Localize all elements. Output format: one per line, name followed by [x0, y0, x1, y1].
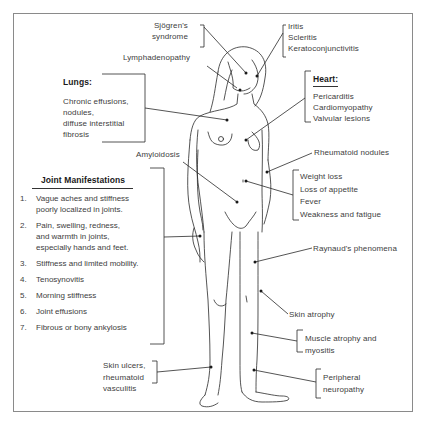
item-text: Morning stiffness: [36, 290, 138, 301]
label-eye-conditions: Iritis Scleritis Keratoconjunctivitis: [288, 21, 359, 54]
joint-manifestations-list: 1.Vague aches and stiffness poorly local…: [20, 193, 138, 338]
label-peripheral-neuropathy: Peripheral neuropathy: [323, 372, 364, 396]
item-text: Stiffness and limited mobility.: [36, 258, 138, 269]
item-number: 2.: [20, 220, 27, 231]
joint-item-4: 4.Tenosynovitis: [20, 274, 138, 285]
item-number: 7.: [20, 322, 27, 333]
item-number: 1.: [20, 193, 27, 204]
label-amyloidosis: Amyloidosis: [136, 149, 180, 160]
joint-item-3: 3.Stiffness and limited mobility.: [20, 258, 138, 269]
item-number: 5.: [20, 290, 27, 301]
label-rheumatoid-nodules: Rheumatoid nodules: [314, 147, 389, 158]
item-text: Joint effusions: [36, 306, 138, 317]
lungs-body: Chronic effusions, nodules, diffuse inte…: [63, 96, 129, 140]
joint-item-7: 7.Fibrous or bony ankylosis: [20, 322, 138, 333]
label-systemic-symptoms: Weight loss Loss of appetite Fever Weakn…: [300, 171, 381, 221]
item-text: Tenosynovitis: [36, 274, 138, 285]
joint-item-5: 5.Morning stiffness: [20, 290, 138, 301]
item-text: Vague aches and stiffness poorly localiz…: [36, 193, 138, 215]
label-muscle-atrophy: Muscle atrophy and myositis: [305, 333, 377, 357]
joint-item-2: 2.Pain, swelling, redness, and warmth in…: [20, 220, 138, 253]
item-number: 6.: [20, 306, 27, 317]
label-raynauds-phenomena: Raynaud's phenomena: [313, 243, 397, 254]
item-text: Pain, swelling, redness, and warmth in j…: [36, 220, 138, 253]
lungs-title: Lungs:: [63, 77, 92, 88]
heart-body: Pericarditis Cardiomyopathy Valvular les…: [313, 91, 373, 124]
item-number: 3.: [20, 258, 27, 269]
joint-manifestations-title: Joint Manifestations: [32, 175, 133, 189]
label-sjogrens-syndrome: Sjögren's syndrome: [152, 20, 188, 42]
item-number: 4.: [20, 274, 27, 285]
label-skin-atrophy: Skin atrophy: [289, 309, 335, 320]
heart-title: Heart:: [313, 74, 338, 87]
joint-item-6: 6.Joint effusions: [20, 306, 138, 317]
label-lymphadenopathy: Lymphadenopathy: [123, 52, 190, 63]
item-text: Fibrous or bony ankylosis: [36, 322, 138, 333]
label-skin-ulcers: Skin ulcers, rheumatoid vasculitis: [103, 360, 146, 395]
joint-item-1: 1.Vague aches and stiffness poorly local…: [20, 193, 138, 215]
